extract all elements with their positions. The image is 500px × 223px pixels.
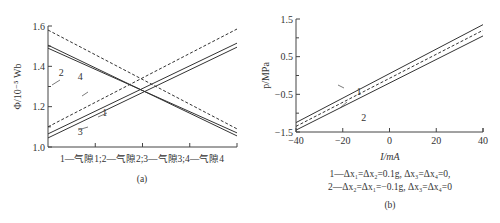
x-tick-label: −20 [335, 135, 351, 146]
x-tick-label: 40 [478, 135, 488, 146]
chart-b: 1.50.5−0.5−1.5−40−200204012p/MPaI/mA1—Δx… [260, 14, 488, 212]
y-axis-title: Φ/10⁻⁵ Wb [12, 64, 23, 110]
y-tick-label: −0.5 [275, 89, 293, 100]
series-annotation: 3 [78, 126, 83, 137]
series-annotation: 2 [59, 67, 64, 78]
series-annotation: 1 [357, 86, 362, 97]
y-tick-label: 1.6 [33, 21, 46, 32]
legend-entry-2: 2—Δx₂=Δx₁=−0.1g, Δx₃=Δx₄=0 [328, 182, 452, 192]
y-tick-label: 0.5 [281, 51, 294, 62]
legend-entry-1: 1—Δx₁=Δx₂=0.1g, Δx₃=Δx₄=0, [330, 169, 451, 179]
x-tick-label: 20 [431, 135, 441, 146]
series-annotation: 2 [361, 112, 366, 123]
y-tick-label: 1.0 [33, 142, 46, 153]
series-line-dashed [296, 30, 483, 126]
chart-a: 1.01.21.41.61234Φ/10⁻⁵ Wb1—气隙1;2—气隙2;3—气… [12, 21, 237, 186]
y-tick-label: 1.2 [33, 101, 46, 112]
panel-label-a: (a) [137, 174, 148, 185]
series-line-dashed-rising [48, 29, 237, 127]
x-axis-legend: 1—气隙1;2—气隙2;3—气隙3;4—气隙4 [60, 153, 224, 164]
x-axis-title: I/mA [379, 151, 400, 162]
y-axis-title: p/MPa [260, 62, 271, 89]
series-line-2 [296, 36, 483, 130]
x-tick-label: 0 [387, 135, 392, 146]
figure: 1.01.21.41.61234Φ/10⁻⁵ Wb1—气隙1;2—气隙2;3—气… [0, 0, 500, 223]
series-line-dashed-falling [48, 30, 237, 129]
series-annotation: 1 [102, 107, 107, 118]
panel-label-b: (b) [384, 200, 395, 211]
series-annotation: 4 [78, 71, 83, 82]
x-tick-label: −40 [288, 135, 304, 146]
y-tick-label: 1.4 [33, 61, 46, 72]
y-tick-label: 1.5 [281, 14, 294, 25]
series-line-1 [296, 25, 483, 123]
